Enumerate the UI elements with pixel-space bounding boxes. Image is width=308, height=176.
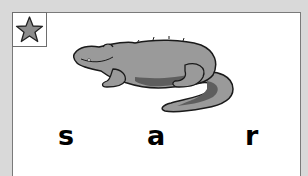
letter-choice-2[interactable]: a <box>147 122 165 149</box>
crocodile-image <box>73 33 243 115</box>
letter-choice-1[interactable]: s <box>58 122 74 149</box>
star-badge[interactable] <box>12 12 47 47</box>
star-icon <box>15 15 44 44</box>
letter-choice-3[interactable]: r <box>245 122 258 149</box>
flash-card: s a r <box>12 12 301 176</box>
